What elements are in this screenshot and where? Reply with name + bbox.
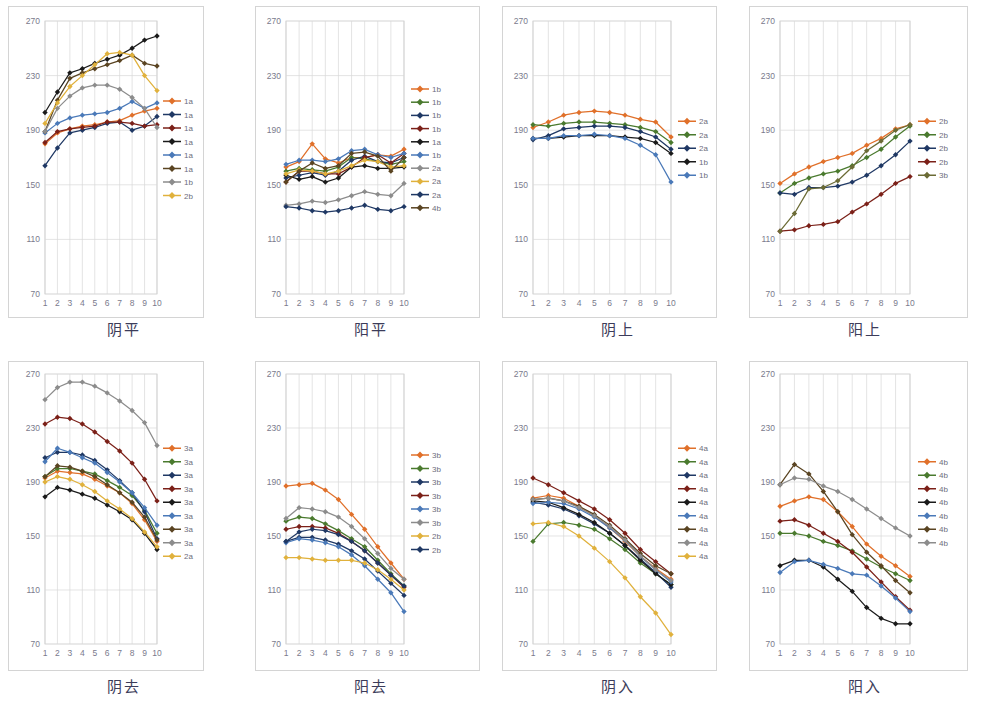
- legend-swatch-marker: [169, 526, 176, 533]
- y-axis-tick-label: 110: [267, 234, 281, 244]
- x-axis-tick-label: 5: [92, 298, 97, 308]
- legend-swatch-marker: [684, 472, 691, 479]
- y-axis-tick-label: 150: [267, 531, 281, 541]
- x-axis-tick-label: 1: [531, 298, 536, 308]
- y-axis-tick-label: 230: [26, 423, 40, 433]
- y-axis-tick-label: 270: [267, 369, 281, 379]
- plot-area: [45, 21, 157, 294]
- legend-swatch-marker: [169, 499, 176, 506]
- x-axis-tick-label: 3: [807, 648, 812, 658]
- x-axis-tick-label: 4: [80, 648, 85, 658]
- x-axis-tick-label: 1: [778, 298, 783, 308]
- x-axis-tick-label: 8: [130, 648, 135, 658]
- x-axis-tick-label: 7: [362, 648, 367, 658]
- chart-panel-2: 70110150190230270123456789101b1b1b1b1a1b…: [255, 6, 480, 318]
- x-axis-tick-label: 7: [864, 298, 869, 308]
- legend-swatch-marker: [684, 485, 691, 492]
- chart-cell-4: 70110150190230270123456789102b2b2b2b3b阳上: [741, 0, 988, 355]
- legend-swatch-marker: [417, 178, 424, 185]
- chart-panel-3: 70110150190230270123456789102a2a2a1b1b: [502, 6, 717, 318]
- plot-area: [780, 21, 910, 294]
- x-axis-tick-label: 7: [117, 648, 122, 658]
- y-axis-tick-label: 110: [26, 585, 40, 595]
- x-axis-tick-label: 3: [807, 298, 812, 308]
- plot-area: [286, 21, 404, 294]
- x-axis-tick-label: 3: [561, 648, 566, 658]
- y-axis-tick-label: 230: [761, 423, 775, 433]
- chart-svg-8: 70110150190230270123456789104b4b4b4b4b4b…: [750, 362, 969, 672]
- panel-caption-8: 阳入: [741, 675, 988, 696]
- legend-swatch-marker: [684, 553, 691, 560]
- x-axis-tick-label: 6: [349, 298, 354, 308]
- x-axis-tick-label: 5: [336, 298, 341, 308]
- legend-swatch-marker: [684, 131, 691, 138]
- legend-swatch-marker: [684, 158, 691, 165]
- y-axis-tick-label: 190: [761, 477, 775, 487]
- legend-label: 4b: [939, 498, 948, 507]
- y-axis-tick-label: 150: [267, 180, 281, 190]
- y-axis-tick-label: 230: [514, 423, 528, 433]
- legend-swatch-marker: [417, 479, 424, 486]
- x-axis-tick-label: 6: [850, 648, 855, 658]
- x-axis-tick-label: 8: [879, 648, 884, 658]
- y-axis-tick-label: 70: [766, 289, 776, 299]
- legend-swatch-marker: [684, 445, 691, 452]
- y-axis-tick-label: 110: [761, 585, 775, 595]
- x-axis-tick-label: 8: [638, 648, 643, 658]
- x-axis-tick-label: 4: [323, 298, 328, 308]
- legend-swatch-marker: [417, 452, 424, 459]
- panel-caption-1: 阴平: [0, 318, 247, 339]
- y-axis-tick-label: 190: [267, 477, 281, 487]
- chart-panel-4: 70110150190230270123456789102b2b2b2b3b: [749, 6, 968, 318]
- legend-swatch-marker: [417, 99, 424, 106]
- plot-area: [533, 21, 671, 294]
- x-axis-tick-label: 9: [142, 648, 147, 658]
- x-axis-tick-label: 2: [792, 298, 797, 308]
- x-axis-tick-label: 9: [653, 648, 658, 658]
- x-axis-tick-label: 3: [68, 648, 73, 658]
- legend-label: 1a: [184, 111, 193, 120]
- legend-label: 4b: [432, 204, 441, 213]
- x-axis-tick-label: 5: [92, 648, 97, 658]
- chart-cell-1: 70110150190230270123456789101a1a1a1a1a1a…: [0, 0, 247, 355]
- legend-swatch-marker: [417, 492, 424, 499]
- plot-area: [45, 374, 157, 644]
- y-axis-tick-label: 150: [761, 180, 775, 190]
- y-axis-tick-label: 230: [26, 71, 40, 81]
- legend-label: 2a: [699, 144, 708, 153]
- legend-swatch-marker: [417, 86, 424, 93]
- legend-label: 4a: [699, 458, 708, 467]
- x-axis-tick-label: 8: [879, 298, 884, 308]
- legend-label: 1a: [184, 138, 193, 147]
- legend-label: 2a: [432, 164, 441, 173]
- x-axis-tick-label: 3: [561, 298, 566, 308]
- chart-svg-2: 70110150190230270123456789101b1b1b1b1a1b…: [256, 7, 481, 319]
- x-axis-tick-label: 6: [105, 648, 110, 658]
- x-axis-tick-label: 8: [130, 298, 135, 308]
- legend-label: 3a: [184, 525, 193, 534]
- legend-label: 1b: [432, 85, 441, 94]
- x-axis-tick-label: 5: [835, 648, 840, 658]
- legend-label: 1b: [184, 178, 193, 187]
- x-axis-tick-label: 7: [117, 298, 122, 308]
- x-axis-tick-label: 7: [623, 648, 628, 658]
- legend-swatch-marker: [169, 138, 176, 145]
- x-axis-tick-label: 9: [893, 298, 898, 308]
- legend-label: 3b: [432, 519, 441, 528]
- y-axis-tick-label: 110: [761, 234, 775, 244]
- legend-swatch-marker: [169, 125, 176, 132]
- y-axis-tick-label: 70: [766, 639, 776, 649]
- x-axis-tick-label: 1: [43, 298, 48, 308]
- legend-label: 1b: [699, 158, 708, 167]
- legend-label: 1a: [184, 165, 193, 174]
- panel-caption-3: 阴上: [494, 318, 741, 339]
- panel-caption-2: 阳平: [247, 318, 494, 339]
- x-axis-tick-label: 2: [546, 298, 551, 308]
- x-axis-tick-label: 10: [152, 298, 162, 308]
- x-axis-tick-label: 1: [778, 648, 783, 658]
- legend-label: 2a: [184, 552, 193, 561]
- legend-label: 3a: [184, 444, 193, 453]
- legend-swatch-marker: [924, 172, 931, 179]
- legend-label: 2b: [939, 131, 948, 140]
- legend-swatch-marker: [417, 546, 424, 553]
